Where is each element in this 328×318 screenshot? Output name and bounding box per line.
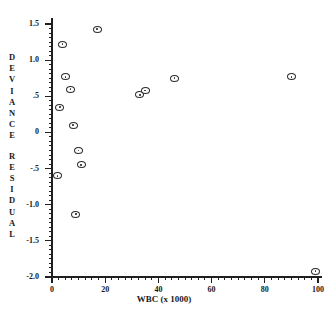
x-tick-label: 40: [145, 285, 171, 294]
data-point: [170, 75, 179, 82]
y-tick-label: .5: [13, 91, 39, 100]
y-axis-title-char: N: [4, 108, 20, 119]
x-tick-label: 100: [305, 285, 328, 294]
y-tick-label: 1.5: [13, 19, 39, 28]
x-tick-label: 20: [92, 285, 118, 294]
y-tick-label: -.5: [13, 164, 39, 173]
x-tick-label: 0: [39, 285, 65, 294]
y-axis-title-char: E: [4, 63, 20, 74]
data-point: [58, 41, 67, 48]
plot-area: [0, 0, 328, 318]
data-point: [71, 211, 80, 218]
y-tick-label: 1.0: [13, 55, 39, 64]
x-axis-title: WBC (x 1000): [0, 294, 328, 304]
data-point: [69, 122, 78, 129]
y-tick-label: 0: [13, 127, 39, 136]
x-tick-label: 60: [199, 285, 225, 294]
x-tick-label: 80: [252, 285, 278, 294]
y-axis-title-char: A: [4, 218, 20, 229]
data-point: [55, 104, 64, 111]
data-point: [141, 87, 150, 94]
scatter-plot-figure: DEVIANCE RESIDUAL WBC (x 1000) 1.51.0.50…: [0, 0, 328, 318]
data-point: [93, 26, 102, 33]
y-axis-title: DEVIANCE RESIDUAL: [4, 52, 20, 240]
y-axis-title-char: I: [4, 184, 20, 195]
axes-and-ticks: [0, 0, 328, 318]
y-axis-title-char: S: [4, 173, 20, 184]
y-axis-title-char: V: [4, 74, 20, 85]
data-point: [311, 268, 320, 275]
y-tick-label: -1.0: [13, 200, 39, 209]
y-tick-label: -2.0: [13, 272, 39, 281]
y-tick-label: -1.5: [13, 236, 39, 245]
y-axis-title-char: R: [4, 151, 20, 162]
data-point: [66, 86, 75, 93]
